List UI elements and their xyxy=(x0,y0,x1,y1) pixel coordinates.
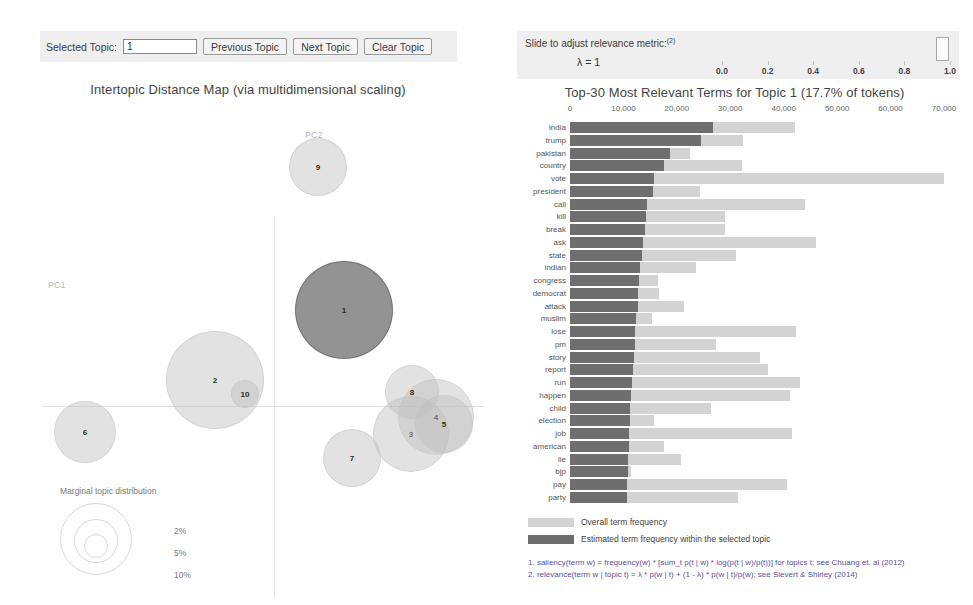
bar-topic-frequency xyxy=(570,454,628,465)
term-label[interactable]: happen xyxy=(539,390,570,401)
topic-bubble-9[interactable]: 9 xyxy=(289,138,347,196)
topic-bubble-10[interactable]: 10 xyxy=(231,380,259,408)
legend-value-2pct: 2% xyxy=(174,526,186,536)
bar-topic-frequency xyxy=(570,301,638,312)
bar-topic-frequency xyxy=(570,428,629,439)
bar-topic-frequency xyxy=(570,377,632,388)
term-label[interactable]: attack xyxy=(545,301,570,312)
term-row[interactable]: attack xyxy=(570,301,944,312)
term-label[interactable]: pakistan xyxy=(536,148,570,159)
term-row[interactable]: india xyxy=(570,122,944,133)
topic-bubble-6[interactable]: 6 xyxy=(54,401,116,463)
term-label[interactable]: call xyxy=(554,199,570,210)
term-row[interactable]: story xyxy=(570,352,944,363)
term-row[interactable]: president xyxy=(570,186,944,197)
term-label[interactable]: pm xyxy=(555,339,570,350)
previous-topic-button[interactable]: Previous Topic xyxy=(203,38,287,55)
term-row[interactable]: lie xyxy=(570,454,944,465)
footnote-saliency: 1. saliency(term w) = frequency(w) * [su… xyxy=(528,557,973,569)
intertopic-scatter-plot[interactable]: PC2 PC1 12346579810 xyxy=(0,104,496,504)
term-label[interactable]: run xyxy=(554,377,570,388)
term-label[interactable]: break xyxy=(546,224,570,235)
term-label[interactable]: democrat xyxy=(533,288,570,299)
pc1-axis-label: PC1 xyxy=(48,280,66,290)
term-label[interactable]: country xyxy=(540,160,570,171)
bar-topic-frequency xyxy=(570,199,647,210)
term-label[interactable]: indian xyxy=(545,262,570,273)
slider-tick-label: 1.0 xyxy=(944,66,956,76)
term-row[interactable]: muslim xyxy=(570,313,944,324)
term-label[interactable]: report xyxy=(545,364,570,375)
term-row[interactable]: kill xyxy=(570,211,944,222)
bar-topic-frequency xyxy=(570,275,639,286)
term-label[interactable]: muslim xyxy=(541,313,570,324)
relevance-slider-handle[interactable] xyxy=(936,37,949,61)
term-row[interactable]: job xyxy=(570,428,944,439)
term-label[interactable]: ask xyxy=(554,237,570,248)
term-row[interactable]: pay xyxy=(570,479,944,490)
topic-bubble-number: 10 xyxy=(241,390,250,399)
bar-topic-frequency xyxy=(570,466,628,477)
bar-topic-frequency xyxy=(570,186,653,197)
term-row[interactable]: child xyxy=(570,403,944,414)
term-row[interactable]: break xyxy=(570,224,944,235)
term-row[interactable]: run xyxy=(570,377,944,388)
term-row[interactable]: lose xyxy=(570,326,944,337)
term-row[interactable]: vote xyxy=(570,173,944,184)
topic-bubble-1[interactable]: 1 xyxy=(295,261,393,359)
term-label[interactable]: lose xyxy=(551,326,570,337)
slider-tick-mark xyxy=(859,61,860,65)
term-label[interactable]: lie xyxy=(558,454,570,465)
term-row[interactable]: pakistan xyxy=(570,148,944,159)
term-label[interactable]: bjp xyxy=(555,466,570,477)
top-terms-barchart[interactable]: 010,00020,00030,00040,00050,00060,00070,… xyxy=(496,104,973,504)
term-row[interactable]: american xyxy=(570,441,944,452)
term-label[interactable]: election xyxy=(538,415,570,426)
term-row[interactable]: ask xyxy=(570,237,944,248)
topic-bubble-number: 9 xyxy=(316,163,320,172)
term-row[interactable]: pm xyxy=(570,339,944,350)
term-row[interactable]: party xyxy=(570,492,944,503)
bar-topic-frequency xyxy=(570,288,638,299)
term-label[interactable]: child xyxy=(550,403,570,414)
term-row[interactable]: congress xyxy=(570,275,944,286)
topic-bubble-7[interactable]: 7 xyxy=(323,429,381,487)
bar-topic-frequency xyxy=(570,173,654,184)
term-label[interactable]: vote xyxy=(551,173,570,184)
term-row[interactable]: bjp xyxy=(570,466,944,477)
bar-topic-frequency xyxy=(570,250,642,261)
selected-topic-input[interactable] xyxy=(123,39,197,54)
clear-topic-button[interactable]: Clear Topic xyxy=(364,38,432,55)
term-row[interactable]: country xyxy=(570,160,944,171)
term-label[interactable]: kill xyxy=(557,211,570,222)
barchart-x-tick-label: 60,000 xyxy=(878,104,902,113)
term-row[interactable]: report xyxy=(570,364,944,375)
term-label[interactable]: story xyxy=(549,352,570,363)
term-row[interactable]: trump xyxy=(570,135,944,146)
topic-bubble-8[interactable]: 8 xyxy=(385,365,439,419)
slider-tick-mark xyxy=(768,61,769,65)
term-label[interactable]: congress xyxy=(534,275,570,286)
term-label[interactable]: american xyxy=(533,441,570,452)
term-row[interactable]: call xyxy=(570,199,944,210)
term-row[interactable]: happen xyxy=(570,390,944,401)
term-label[interactable]: state xyxy=(549,250,570,261)
term-label[interactable]: india xyxy=(549,122,570,133)
term-row[interactable]: election xyxy=(570,415,944,426)
term-label[interactable]: trump xyxy=(546,135,570,146)
term-row[interactable]: democrat xyxy=(570,288,944,299)
relevance-slider-track[interactable] xyxy=(722,35,949,63)
term-label[interactable]: job xyxy=(555,428,570,439)
slider-tick-label: 0.6 xyxy=(853,66,865,76)
next-topic-button[interactable]: Next Topic xyxy=(293,38,358,55)
term-row[interactable]: state xyxy=(570,250,944,261)
term-label[interactable]: pay xyxy=(553,479,570,490)
barchart-x-tick-label: 50,000 xyxy=(825,104,849,113)
term-row[interactable]: indian xyxy=(570,262,944,273)
bar-topic-frequency xyxy=(570,352,634,363)
term-label[interactable]: party xyxy=(548,492,570,503)
legend-value-10pct: 10% xyxy=(174,570,191,580)
slider-tick-label: 0.2 xyxy=(762,66,774,76)
topic-bubble-number: 6 xyxy=(83,428,87,437)
term-label[interactable]: president xyxy=(533,186,570,197)
